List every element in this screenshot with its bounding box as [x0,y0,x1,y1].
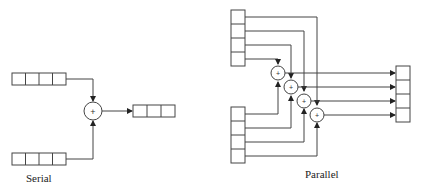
parallel-label: Parallel [305,168,339,180]
serial-output-register [133,105,175,117]
serial-input-register-a [12,73,66,85]
serial-input-register-b [12,153,66,165]
parallel-wire-a4 [245,59,278,64]
parallel-wire-b1 [245,82,278,114]
parallel-adder-symbol-4: + [315,112,319,119]
parallel-input-register-a [231,10,245,66]
parallel-adder-symbol-1: + [276,70,280,77]
parallel-adder-symbol-3: + [302,98,306,105]
parallel-adder-symbol-2: + [289,84,293,91]
parallel-input-register-b [231,107,245,163]
parallel-wire-b2 [245,96,291,128]
serial-label: Serial [26,172,52,184]
parallel-wire-a1 [245,17,317,105]
serial-wire-b [66,121,93,159]
serial-section [12,73,175,165]
serial-adder-symbol: + [90,107,95,117]
serial-wire-a [66,79,93,101]
parallel-section [231,10,410,163]
parallel-output-register [396,66,410,122]
serial-vs-parallel-diagram: + [0,0,421,184]
